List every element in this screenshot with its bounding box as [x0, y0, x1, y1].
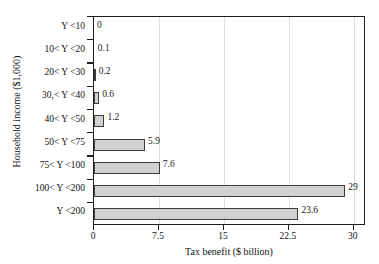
- bar[interactable]: [94, 208, 298, 220]
- y-axis-tick-label: 10< Y <20: [44, 44, 85, 54]
- y-axis-tick: [87, 179, 93, 180]
- x-axis-tick: [223, 225, 224, 230]
- bar-value-label: 0.1: [98, 43, 110, 53]
- bar[interactable]: [94, 139, 145, 151]
- bar-row: 0.1: [94, 40, 366, 63]
- bar-row: 0.6: [94, 87, 366, 110]
- bar-value-label: 29: [348, 182, 358, 192]
- bar[interactable]: [94, 185, 345, 197]
- x-axis-tick-label: 7.5: [138, 231, 178, 241]
- y-axis-tick-label: 100< Y <200: [35, 183, 85, 193]
- bar[interactable]: [94, 46, 95, 58]
- bar-row: 7.6: [94, 156, 366, 179]
- y-axis-tick: [87, 39, 93, 40]
- y-axis-tick: [87, 155, 93, 156]
- bar-row: 23.6: [94, 203, 366, 226]
- bar-value-label: 1.2: [107, 112, 119, 122]
- bar-value-label: 0.2: [99, 66, 111, 76]
- y-axis-tick-label: 40< Y <50: [44, 114, 85, 124]
- clipped-title-fragment: ····· ···: [185, 0, 315, 1]
- plot-area: 00.10.20.61.25.97.62923.6: [93, 16, 365, 225]
- y-axis-labels: Y <1010< Y <2020< Y <3030,< Y <4040< Y <…: [0, 16, 89, 225]
- x-axis-tick-label: 30: [333, 231, 373, 241]
- x-axis-title: Tax benefit ($ billion): [93, 246, 365, 257]
- bar[interactable]: [94, 162, 160, 174]
- x-axis-tick-label: 0: [73, 231, 113, 241]
- y-axis-tick: [87, 86, 93, 87]
- x-axis-tick: [93, 225, 94, 230]
- y-axis-tick-label: 30,< Y <40: [42, 90, 85, 100]
- bar-row: 0: [94, 17, 366, 40]
- bar-value-label: 23.6: [301, 205, 318, 215]
- x-axis-tick: [288, 225, 289, 230]
- y-axis-tick: [87, 16, 93, 17]
- bar-value-label: 5.9: [148, 136, 160, 146]
- bar-value-label: 0.6: [102, 89, 114, 99]
- bar[interactable]: [94, 115, 104, 127]
- bar-row: 0.2: [94, 63, 366, 86]
- y-axis-tick-label: Y <10: [61, 21, 85, 31]
- bar-value-label: 0: [97, 20, 102, 30]
- bar[interactable]: [94, 69, 96, 81]
- y-axis-tick-label: 50< Y <75: [44, 137, 85, 147]
- bar-row: 1.2: [94, 110, 366, 133]
- y-axis-tick-label: 75< Y <100: [40, 160, 85, 170]
- y-axis-tick: [87, 132, 93, 133]
- y-axis-tick: [87, 109, 93, 110]
- bar-row: 5.9: [94, 133, 366, 156]
- x-axis-tick: [158, 225, 159, 230]
- y-axis-tick: [87, 62, 93, 63]
- x-axis-tick-label: 22.5: [268, 231, 308, 241]
- bar-value-label: 7.6: [163, 159, 175, 169]
- x-axis-tick: [353, 225, 354, 230]
- bar-chart: ····· ··· Household income ($1,000) Y <1…: [0, 0, 379, 264]
- y-axis-tick-label: 20< Y <30: [44, 67, 85, 77]
- bar-row: 29: [94, 180, 366, 203]
- bar[interactable]: [94, 92, 99, 104]
- y-axis-tick: [87, 202, 93, 203]
- y-axis-tick-label: Y <200: [57, 206, 86, 216]
- x-axis-tick-label: 15: [203, 231, 243, 241]
